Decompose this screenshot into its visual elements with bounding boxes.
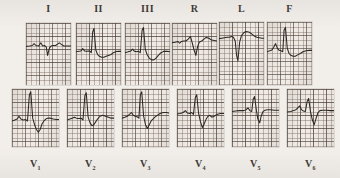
lead-label-subscript: 1 [38,165,41,171]
ecg-trace-l [219,22,264,67]
ecg-panel-ii [76,23,121,85]
lead-label-subscript: 4 [203,165,206,171]
lead-label-v2: V2 [77,159,105,169]
lead-label-ii: II [85,4,113,14]
lead-label-v6: V6 [297,159,325,169]
ecg-sheet: IIIIIIRLF V1V2V3V4V5V6 [0,0,340,178]
lead-label-subscript: 6 [313,165,316,171]
lead-label-v5: V5 [242,159,270,169]
ecg-panel-f [267,22,312,85]
limb-lead-labels: IIIIIIRLF [0,2,340,16]
lead-label-subscript: 5 [258,165,261,171]
lead-label-l: L [228,4,256,14]
ecg-trace-ii [76,23,121,68]
lead-label-iii: III [134,4,162,14]
ecg-trace-r [172,23,217,68]
lead-label-v3: V3 [132,159,160,169]
precordial-leads-row: V1V2V3V4V5V6 [0,86,340,178]
lead-label-r: R [181,4,209,14]
lead-label-v1: V1 [22,159,50,169]
precordial-lead-labels: V1V2V3V4V5V6 [0,86,340,100]
ecg-trace-i [26,23,71,68]
ecg-panel-iii [125,23,170,85]
lead-label-subscript: 3 [148,165,151,171]
lead-label-subscript: 2 [93,165,96,171]
lead-label-f: F [276,4,304,14]
limb-leads-row: IIIIIIRLF [0,2,340,86]
lead-label-v4: V4 [187,159,215,169]
ecg-panel-r [172,23,217,85]
lead-label-i: I [35,4,63,14]
ecg-panel-i [26,23,71,85]
ecg-panel-l [219,22,264,85]
ecg-trace-iii [125,23,170,68]
ecg-trace-f [267,22,312,67]
